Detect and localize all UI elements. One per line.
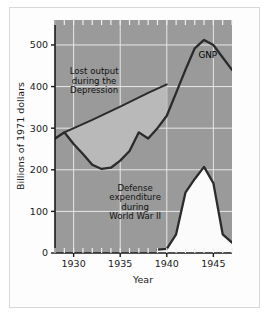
y-tick-label: 200 bbox=[30, 164, 48, 175]
annotation-line: Defense bbox=[117, 183, 152, 193]
y-tick-label: 300 bbox=[30, 123, 48, 134]
annotation-line: GNP bbox=[198, 50, 217, 60]
x-tick-label: 1940 bbox=[155, 258, 179, 269]
y-axis-title: Billions of 1971 dollars bbox=[15, 82, 26, 190]
y-axis-tick-labels: 0100200300400500 bbox=[30, 39, 48, 258]
y-tick-label: 500 bbox=[30, 39, 48, 50]
x-axis-tick-labels: 1930193519401945 bbox=[62, 258, 226, 269]
annotation-line: Lost output bbox=[70, 66, 119, 76]
annotation-line: during the bbox=[72, 76, 117, 86]
y-tick-label: 100 bbox=[30, 206, 48, 217]
x-tick-label: 1930 bbox=[62, 258, 86, 269]
gnp-series-label: GNP bbox=[198, 50, 217, 60]
x-axis-title: Year bbox=[132, 274, 153, 285]
x-tick-label: 1945 bbox=[201, 258, 225, 269]
figure-root: 0100200300400500 1930193519401945 Billio… bbox=[0, 0, 269, 318]
x-tick-label: 1935 bbox=[108, 258, 132, 269]
annotation-line: Depression bbox=[70, 85, 118, 95]
economics-line-chart: 0100200300400500 1930193519401945 Billio… bbox=[0, 0, 269, 318]
annotation-line: World War II bbox=[109, 211, 161, 221]
y-tick-label: 400 bbox=[30, 81, 48, 92]
annotation-line: during bbox=[121, 202, 149, 212]
annotation-line: expenditure bbox=[109, 192, 161, 202]
y-tick-label: 0 bbox=[42, 247, 48, 258]
lost-output-annotation: Lost outputduring theDepression bbox=[70, 66, 119, 95]
